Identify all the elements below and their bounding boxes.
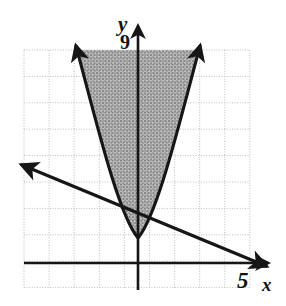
- graph-figure: [0, 0, 286, 306]
- y-scale-mark-label: 9: [120, 32, 130, 52]
- x-axis-label: x: [262, 275, 272, 294]
- x-intercept-label: 5: [237, 269, 249, 292]
